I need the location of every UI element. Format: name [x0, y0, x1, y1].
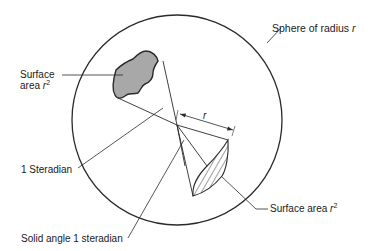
label-radius-dimension: r — [203, 110, 206, 121]
label-surface-area-right: Surface area r2 — [270, 203, 337, 214]
label-solid-angle: Solid angle 1 steradian — [21, 233, 123, 244]
leader-one-steradian — [78, 108, 163, 168]
leader-surface-right — [221, 176, 268, 209]
hatched-surface-area — [193, 140, 228, 196]
sphere-circle — [72, 15, 282, 225]
label-sphere-radius: Sphere of radius r — [272, 23, 355, 34]
label-one-steradian: 1 Steradian — [21, 164, 72, 175]
surface-area-blob — [113, 51, 158, 98]
label-surface-area-left: Surface area r2 — [20, 69, 54, 91]
